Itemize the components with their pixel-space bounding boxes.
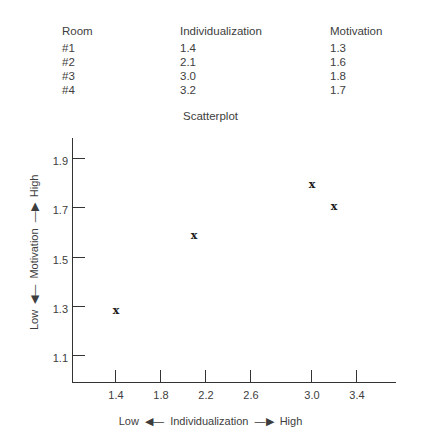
x-tick-label: 3.0 bbox=[297, 390, 327, 401]
data-point-marker: x bbox=[188, 230, 200, 242]
right-arrow-icon: —▶ bbox=[251, 415, 276, 427]
data-point-marker: x bbox=[328, 201, 340, 213]
data-point-marker: x bbox=[306, 179, 318, 191]
x-tick-label: 1.8 bbox=[146, 390, 176, 401]
x-axis-label: Low ◀— Individualization —▶ High bbox=[0, 415, 421, 428]
y-axis-label-low: Low bbox=[28, 310, 40, 330]
left-arrow-icon: ◀— bbox=[28, 282, 40, 307]
scatterplot-figure: Room Individualization Motivation #1 1.4… bbox=[0, 0, 421, 441]
x-tick-label: 3.4 bbox=[342, 390, 372, 401]
x-tick-label: 2.2 bbox=[191, 390, 221, 401]
x-tick-label: 2.6 bbox=[236, 390, 266, 401]
right-arrow-icon: —▶ bbox=[28, 200, 40, 225]
left-arrow-icon: ◀— bbox=[142, 415, 167, 427]
y-axis-label: Low ◀— Motivation —▶ High bbox=[28, 175, 41, 330]
chart-axes bbox=[0, 0, 421, 441]
y-tick-label: 1.1 bbox=[34, 353, 68, 364]
y-axis-label-high: High bbox=[28, 175, 40, 198]
x-axis-ticks bbox=[116, 370, 357, 383]
data-point-marker: x bbox=[110, 305, 122, 317]
x-axis-label-low: Low bbox=[119, 415, 139, 427]
x-axis-label-high: High bbox=[280, 415, 303, 427]
y-axis-ticks bbox=[73, 159, 86, 356]
y-axis-label-name: Motivation bbox=[28, 228, 40, 278]
x-axis-label-name: Individualization bbox=[170, 415, 248, 427]
scatterplot-chart: Scatterplot bbox=[0, 0, 421, 441]
y-tick-label: 1.9 bbox=[34, 156, 68, 167]
x-tick-label: 1.4 bbox=[101, 390, 131, 401]
